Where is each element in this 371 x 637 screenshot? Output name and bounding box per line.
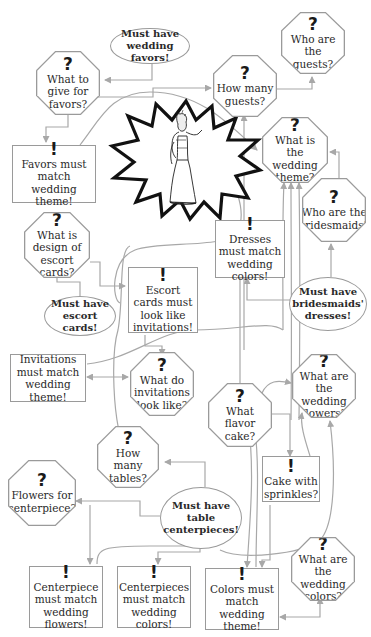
question-mark-icon: ? (37, 472, 47, 489)
centerpiece-match-flowers-node[interactable]: ! Centerpiece must match wedding flowers… (29, 566, 103, 628)
must-have-bridesmaids-dresses-node[interactable]: Must have bridesmaids' dresses! (289, 277, 367, 331)
what-flavor-cake-node[interactable]: ? What flavor cake? (208, 383, 272, 447)
node-label: Invitations must match wedding theme! (11, 353, 85, 403)
node-label: Cake with sprinkles? (262, 475, 320, 500)
exclamation-icon: ! (238, 566, 246, 583)
node-label: Must have wedding favors! (111, 28, 189, 64)
exclamation-icon: ! (287, 458, 295, 475)
cake-with-sprinkles-node[interactable]: ! Cake with sprinkles? (262, 456, 320, 502)
node-label: Who are the bridesmaids? (297, 206, 371, 231)
node-label: Centerpieces must match wedding colors! (117, 581, 191, 631)
node-label: How many tables? (98, 447, 157, 485)
node-label: Dresses must match wedding colors! (216, 233, 284, 283)
node-label: What do invitations look like? (131, 374, 192, 412)
must-have-escort-cards-node[interactable]: Must have escort cards! (44, 296, 116, 336)
centerpieces-match-colors-node[interactable]: ! Centerpieces must match wedding colors… (117, 566, 191, 628)
exclamation-icon: ! (150, 564, 158, 581)
colors-match-theme-node[interactable]: ! Colors must match wedding theme! (205, 568, 279, 630)
dresses-match-colors-node[interactable]: ! Dresses must match wedding colors! (215, 220, 285, 278)
node-label: Centerpiece must match wedding flowers! (30, 581, 102, 631)
invitations-match-theme-node[interactable]: Invitations must match wedding theme! (10, 354, 86, 402)
node-label: Favors must match wedding theme! (13, 158, 95, 208)
question-mark-icon: ? (308, 16, 318, 33)
exclamation-icon: ! (50, 141, 58, 158)
node-label: Must have bridesmaids' dresses! (290, 286, 366, 322)
question-mark-icon: ? (157, 357, 167, 374)
what-do-invitations-look-like-node[interactable]: ? What do invitations look like? (130, 352, 194, 416)
node-label: Colors must match wedding theme! (206, 583, 278, 633)
node-label: How many guests? (214, 82, 275, 107)
node-label: What to give for favors? (37, 73, 98, 111)
exclamation-icon: ! (246, 216, 254, 233)
favors-match-theme-node[interactable]: ! Favors must match wedding theme! (12, 145, 96, 203)
question-mark-icon: ? (235, 388, 245, 405)
what-are-the-wedding-flowers-node[interactable]: ? What are the wedding flowers? (292, 354, 356, 418)
exclamation-icon: ! (159, 267, 167, 284)
question-mark-icon: ? (318, 536, 328, 553)
must-have-wedding-favors-node[interactable]: Must have wedding favors! (110, 28, 190, 64)
question-mark-icon: ? (319, 353, 329, 370)
question-mark-icon: ? (240, 65, 250, 82)
question-mark-icon: ? (63, 56, 73, 73)
node-label: Must have escort cards! (45, 298, 115, 334)
how-many-guests-node[interactable]: ? How many guests? (213, 55, 277, 117)
who-are-the-bridesmaids-node[interactable]: ? Who are the bridesmaids? (302, 178, 366, 242)
question-mark-icon: ? (290, 117, 300, 134)
woman-in-victorian-dress-figure-icon (160, 108, 210, 208)
question-mark-icon: ? (52, 212, 62, 229)
who-are-the-guests-node[interactable]: ? Who are the guests? (281, 12, 345, 74)
node-label: What flavor cake? (209, 405, 270, 443)
node-label: Escort cards must look like invitations! (129, 284, 197, 334)
node-label: Must have table centerpieces! (161, 500, 241, 536)
escort-cards-look-like-invitations-node[interactable]: ! Escort cards must look like invitation… (128, 267, 198, 333)
question-mark-icon: ? (329, 189, 339, 206)
exclamation-icon: ! (62, 564, 70, 581)
node-label: Who are the guests? (282, 33, 343, 71)
wedding-planning-diagram: Must have wedding favors! ? What to give… (0, 0, 371, 637)
must-have-table-centerpieces-node[interactable]: Must have table centerpieces! (160, 487, 242, 549)
question-mark-icon: ? (123, 430, 133, 447)
node-label: Flowers for centerpiece? (6, 489, 78, 514)
